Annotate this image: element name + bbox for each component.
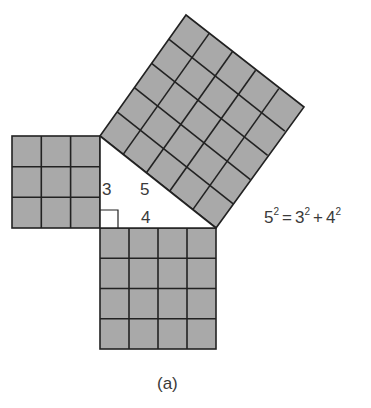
leg-4-square bbox=[100, 228, 216, 349]
leg-3-square bbox=[12, 136, 100, 228]
pythagorean-diagram: 3 5 4 52=32+42 (a) bbox=[0, 0, 371, 408]
equation-text: 52=32+42 bbox=[264, 206, 341, 227]
equation: 52=32+42 bbox=[264, 206, 341, 227]
figure-caption: (a) bbox=[157, 374, 178, 393]
label-vertical-leg: 3 bbox=[102, 180, 111, 199]
label-hypotenuse: 5 bbox=[140, 180, 149, 199]
label-horizontal-leg: 4 bbox=[141, 208, 150, 227]
